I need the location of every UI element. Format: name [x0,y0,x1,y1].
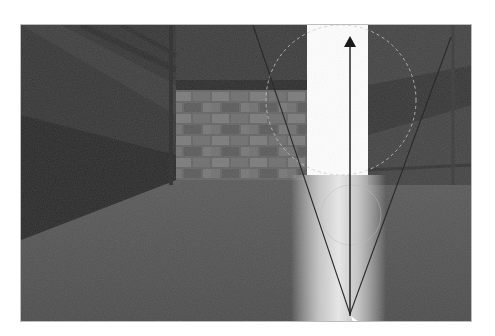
scene-canvas [21,25,472,322]
rendered-scene [20,24,472,322]
